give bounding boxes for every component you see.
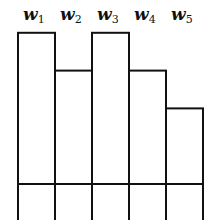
bar-w2	[55, 71, 92, 220]
bar-diagram: w1w2w3w4w5	[0, 0, 222, 220]
bar-label-w3: w3	[97, 4, 119, 26]
bar-label-w5: w5	[171, 4, 193, 26]
bar-w4	[129, 71, 166, 220]
bar-label-w4: w4	[134, 4, 156, 26]
bar-w3	[92, 33, 129, 220]
bar-label-w1: w1	[23, 4, 45, 26]
bar-w5	[166, 108, 203, 220]
bar-w1	[18, 33, 55, 220]
bar-label-w2: w2	[60, 4, 82, 26]
